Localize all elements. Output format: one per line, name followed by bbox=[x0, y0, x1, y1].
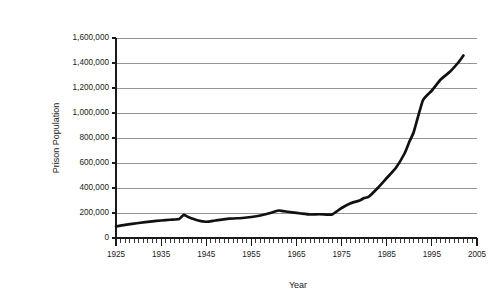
y-tick-label-0: 0 bbox=[104, 233, 109, 242]
x-tick-label-1985: 1985 bbox=[378, 250, 397, 259]
x-axis-tick-labels: 192519351945195519651975198519952005 bbox=[107, 250, 487, 259]
y-tick-label-1600000: 1,600,000 bbox=[73, 33, 110, 42]
y-tick-label-1400000: 1,400,000 bbox=[73, 58, 110, 67]
y-tick-label-1000000: 1,000,000 bbox=[73, 108, 110, 117]
x-tick-label-1975: 1975 bbox=[333, 250, 352, 259]
x-tick-label-1925: 1925 bbox=[107, 250, 126, 259]
y-tick-label-200000: 200,000 bbox=[79, 208, 109, 217]
x-tick-label-1955: 1955 bbox=[242, 250, 261, 259]
chart-canvas: 0200,000400,000600,000800,0001,000,0001,… bbox=[40, 16, 491, 292]
y-tick-label-400000: 400,000 bbox=[79, 183, 109, 192]
y-tick-label-800000: 800,000 bbox=[79, 133, 109, 142]
x-tick-label-1945: 1945 bbox=[197, 250, 216, 259]
x-tick-label-1935: 1935 bbox=[152, 250, 171, 259]
x-tick-label-1965: 1965 bbox=[287, 250, 306, 259]
y-tick-label-1200000: 1,200,000 bbox=[73, 83, 110, 92]
x-axis-title: Year bbox=[289, 280, 307, 290]
x-tick-label-2005: 2005 bbox=[468, 250, 487, 259]
y-tick-label-600000: 600,000 bbox=[79, 158, 109, 167]
x-tick-label-1995: 1995 bbox=[423, 250, 442, 259]
prison-population-chart: 0200,000400,000600,000800,0001,000,0001,… bbox=[40, 16, 491, 292]
y-axis-title: Prison Population bbox=[51, 103, 61, 174]
